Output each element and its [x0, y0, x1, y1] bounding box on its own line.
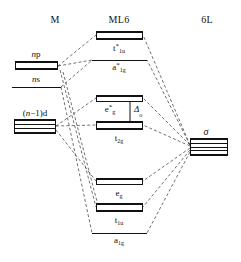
mo-t1u-star-level	[96, 31, 143, 40]
correlation-line-n-1-d-to-t2g	[56, 125, 96, 126]
ligand-sigma-level	[190, 138, 228, 156]
degenerate-rule	[191, 147, 227, 148]
degenerate-rule	[191, 150, 227, 151]
metal-np-label: np	[0, 49, 76, 59]
metal-n-1-d-level	[14, 119, 56, 134]
degenerate-rule	[15, 120, 55, 121]
mo-t2g-label: t2g	[79, 133, 159, 143]
degenerate-rule	[16, 68, 57, 69]
ligand-sigma-label: σ	[186, 126, 226, 137]
correlation-line-sigma-to-eg	[143, 148, 190, 181]
mo-eg-level	[96, 178, 143, 185]
mo-t1u-level	[96, 203, 143, 212]
degenerate-rule	[97, 96, 142, 97]
column-heading-ligands: 6L	[177, 14, 237, 25]
degenerate-rule	[15, 132, 55, 133]
mo-t1u-star-label: t*1u	[79, 43, 159, 53]
mo-eg-star-level	[96, 95, 143, 102]
mo-a1g-level	[92, 233, 147, 234]
metal-ns-label: ns	[0, 74, 76, 84]
mo-eg-label: eg	[79, 188, 159, 198]
metal-ns-level	[12, 87, 61, 88]
degenerate-rule	[15, 128, 55, 129]
mo-energy-level-diagram: M ML6 6L npns(n−1)d t*1ua*1ge*gt2gegt1ua…	[0, 0, 241, 262]
mo-t2g-level	[96, 121, 143, 130]
degenerate-rule	[97, 38, 142, 39]
degenerate-rule	[97, 128, 142, 129]
mo-a1g-label: a1g	[79, 235, 159, 245]
mo-t1u-label: t1u	[79, 215, 159, 225]
metal-n-1-d-label: (n−1)d	[0, 108, 75, 118]
degenerate-rule	[191, 139, 227, 140]
degenerate-rule	[15, 124, 55, 125]
metal-np-level	[15, 61, 58, 70]
degenerate-rule	[16, 62, 57, 63]
degenerate-rule	[97, 122, 142, 123]
degenerate-rule	[97, 210, 142, 211]
degenerate-rule	[97, 179, 142, 180]
degenerate-rule	[191, 154, 227, 155]
column-heading-metal: M	[25, 14, 85, 25]
correlation-line-sigma-to-t1u	[143, 150, 190, 207]
mo-a1g-star-label: a*1g	[79, 62, 159, 72]
degenerate-rule	[97, 32, 142, 33]
splitting-gap-label: Δo	[134, 104, 142, 116]
degenerate-rule	[191, 143, 227, 144]
column-heading-complex: ML6	[89, 14, 149, 25]
degenerate-rule	[97, 204, 142, 205]
